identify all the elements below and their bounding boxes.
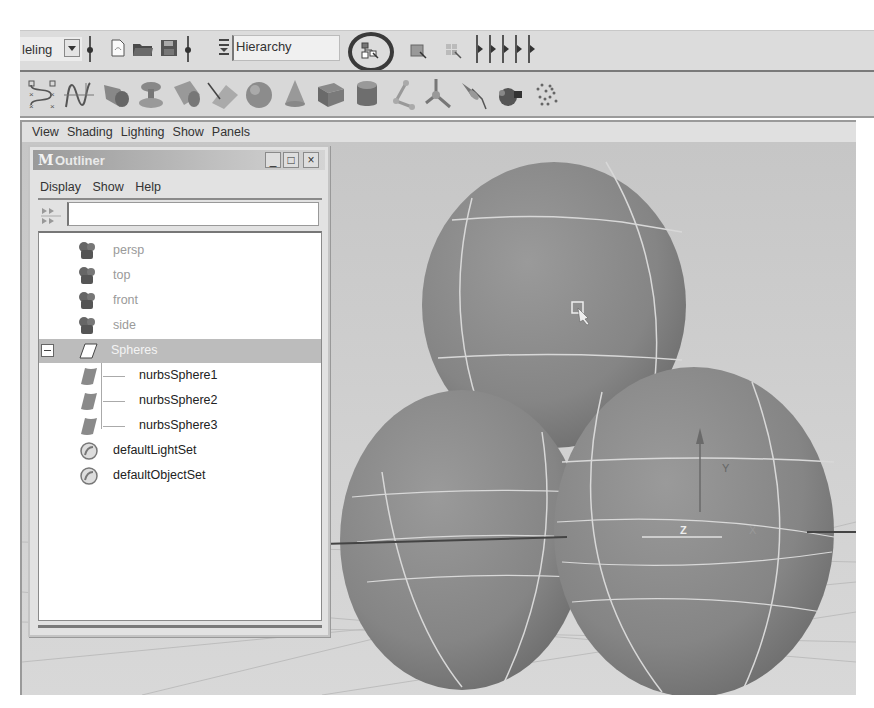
chevron-down-icon[interactable]: [64, 39, 80, 57]
maya-logo-icon: M: [38, 152, 54, 168]
menu-set-dropdown[interactable]: leling: [20, 37, 82, 61]
tree-item-nurbssphere2[interactable]: nurbsSphere2: [39, 389, 321, 413]
outliner-title: Outliner: [55, 153, 105, 168]
cube-icon[interactable]: [314, 77, 348, 111]
svg-text:×: ×: [50, 90, 55, 99]
axis-label-y: Y: [722, 462, 730, 474]
tree-item-nurbssphere1[interactable]: nurbsSphere1: [39, 364, 321, 388]
nurbs-sphere-3[interactable]: [554, 367, 834, 695]
set-icon: [79, 466, 99, 486]
outliner-menu-bar: Display Show Help: [40, 180, 169, 194]
group-icon: [79, 341, 99, 361]
horizontal-scrollbar[interactable]: [38, 625, 322, 628]
menu-show[interactable]: Show: [173, 125, 204, 139]
filter-toggle-icon[interactable]: [40, 204, 62, 228]
cv-curve-icon[interactable]: ××××: [26, 77, 60, 111]
camera-icon: [77, 241, 97, 261]
camera-icon: [77, 316, 97, 336]
planar-icon[interactable]: [206, 77, 240, 111]
tree-item-top[interactable]: top: [39, 264, 321, 288]
tree-item-side[interactable]: side: [39, 314, 321, 338]
open-scene-icon[interactable]: [132, 39, 154, 57]
panel-menu-bar: View Shading Lighting Show Panels: [22, 120, 856, 142]
selection-mode-field[interactable]: Hierarchy: [232, 35, 340, 61]
revolve-icon[interactable]: [98, 77, 132, 111]
ik-handle-icon[interactable]: [422, 77, 456, 111]
sphere-icon[interactable]: [242, 77, 276, 111]
nurbs-surface-icon: [79, 416, 99, 436]
menu-shading[interactable]: Shading: [67, 125, 113, 139]
tree-item-defaultobjectset[interactable]: defaultObjectSet: [39, 464, 321, 488]
select-by-component-type-icon[interactable]: [445, 42, 463, 60]
toolbar-separator[interactable]: [89, 36, 91, 62]
maximize-button[interactable]: □: [283, 152, 299, 168]
selection-mode-icon[interactable]: [219, 38, 229, 56]
minimize-button[interactable]: _: [265, 152, 281, 168]
tree-branch-line: [103, 401, 125, 402]
tree-item-spheres[interactable]: Spheres: [39, 339, 321, 363]
select-by-object-type-icon[interactable]: [410, 42, 428, 60]
tree-branch-line: [103, 376, 125, 377]
menu-panels[interactable]: Panels: [212, 125, 250, 139]
close-button[interactable]: ×: [303, 152, 319, 168]
svg-text:×: ×: [29, 90, 34, 99]
toolbar-collapse-handle[interactable]: [515, 35, 517, 63]
cone-icon[interactable]: [278, 77, 312, 111]
outliner-title-bar[interactable]: M Outliner _ □ ×: [33, 150, 325, 170]
loft-icon[interactable]: [134, 77, 168, 111]
nurbs-surface-icon: [79, 366, 99, 386]
axis-label-z: Z: [680, 524, 687, 536]
status-line: leling Hierarchy: [20, 30, 874, 70]
menu-set-value: leling: [20, 42, 52, 57]
svg-text:×: ×: [29, 102, 34, 111]
toolbar-collapse-handle[interactable]: [528, 35, 530, 63]
highlight-circle-annotation: [348, 32, 394, 72]
tree-item-persp[interactable]: persp: [39, 239, 321, 263]
new-scene-icon[interactable]: [109, 39, 127, 57]
outliner-search-input[interactable]: [67, 202, 319, 226]
outliner-menu-display[interactable]: Display: [40, 180, 81, 194]
menu-lighting[interactable]: Lighting: [121, 125, 165, 139]
toolbar-separator[interactable]: [187, 36, 189, 62]
paint-effects-icon[interactable]: [494, 77, 528, 111]
collapse-toggle-icon[interactable]: [41, 344, 54, 357]
particles-icon[interactable]: [530, 77, 564, 111]
divider: [38, 198, 322, 200]
camera-icon: [77, 291, 97, 311]
shelf: ××××: [20, 70, 874, 118]
set-icon: [79, 441, 99, 461]
extrude-icon[interactable]: [170, 77, 204, 111]
outliner-tree: persp top front side Spheres nurbsSphere…: [38, 231, 322, 621]
tree-item-front[interactable]: front: [39, 289, 321, 313]
joint-icon[interactable]: [386, 77, 420, 111]
camera-icon: [77, 266, 97, 286]
outliner-menu-show[interactable]: Show: [92, 180, 123, 194]
spotlight-icon[interactable]: [458, 77, 492, 111]
ep-curve-icon[interactable]: [62, 77, 96, 111]
nurbs-surface-icon: [79, 391, 99, 411]
tree-item-nurbssphere3[interactable]: nurbsSphere3: [39, 414, 321, 438]
menu-view[interactable]: View: [32, 125, 59, 139]
toolbar-collapse-handle[interactable]: [489, 35, 491, 63]
outliner-menu-help[interactable]: Help: [135, 180, 161, 194]
svg-text:×: ×: [50, 102, 55, 111]
tree-branch-line: [103, 426, 125, 427]
save-scene-icon[interactable]: [160, 39, 178, 57]
toolbar-collapse-handle[interactable]: [476, 35, 478, 63]
toolbar-collapse-handle[interactable]: [502, 35, 504, 63]
outliner-window: M Outliner _ □ × Display Show Help persp…: [28, 145, 330, 637]
tree-item-defaultlightset[interactable]: defaultLightSet: [39, 439, 321, 463]
cylinder-icon[interactable]: [350, 77, 384, 111]
axis-label-x: X: [749, 524, 757, 536]
